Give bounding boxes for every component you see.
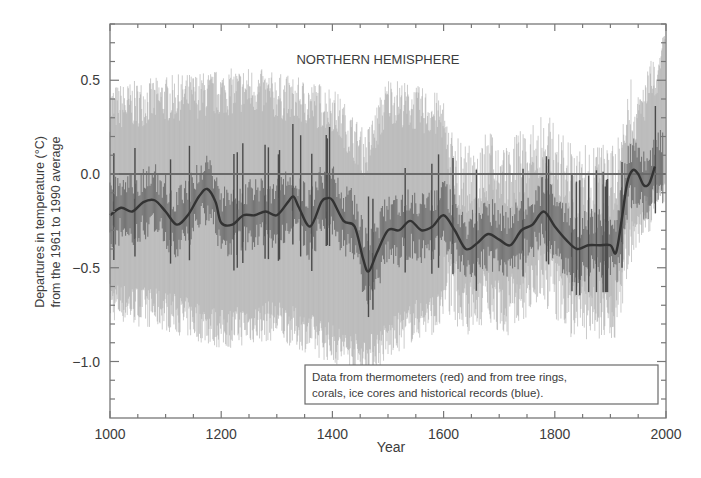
chart-svg: 100012001400160018002000 0.50.0−0.5−1.0 …: [0, 0, 701, 478]
x-tick-label: 1600: [428, 426, 459, 442]
x-axis-label: Year: [377, 439, 406, 455]
legend-line-1: Data from thermometers (red) and from tr…: [312, 371, 567, 383]
chart-title: NORTHERN HEMISPHERE: [296, 52, 459, 67]
x-tick-label: 1400: [317, 426, 348, 442]
y-axis-label: Departures in temperature (°C) from the …: [33, 136, 63, 308]
y-axis-label-line-2: from the 1961 to 1990 average: [49, 136, 63, 307]
x-tick-label: 2000: [650, 426, 681, 442]
y-tick-label: 0.0: [81, 166, 101, 182]
legend-line-2: corals, ice cores and historical records…: [312, 387, 543, 399]
y-axis-tick-labels: 0.50.0−0.5−1.0: [72, 72, 100, 369]
y-tick-label: −1.0: [72, 354, 100, 370]
y-tick-label: −0.5: [72, 260, 100, 276]
x-tick-label: 1200: [206, 426, 237, 442]
y-tick-label: 0.5: [81, 72, 101, 88]
x-tick-label: 1800: [539, 426, 570, 442]
chart: 100012001400160018002000 0.50.0−0.5−1.0 …: [0, 0, 701, 478]
x-tick-label: 1000: [94, 426, 125, 442]
legend-box: Data from thermometers (red) and from tr…: [305, 365, 658, 404]
y-axis-label-line-1: Departures in temperature (°C): [33, 136, 47, 308]
